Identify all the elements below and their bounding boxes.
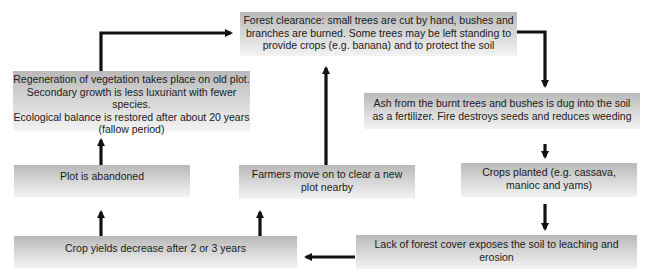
node-text-line: as a fertilizer. Fire destroys seeds and… [372, 110, 631, 123]
node-lack-forest-cover: Lack of forest cover exposes the soil to… [356, 235, 637, 269]
node-text-line: branches are burned. Some trees may be l… [243, 27, 513, 40]
node-text-line: Ash from the burnt trees and bushes is d… [372, 97, 631, 110]
node-text-line: Ecological balance is restored after abo… [13, 111, 250, 124]
node-crop-yields: Crop yields decrease after 2 or 3 years [14, 236, 297, 268]
node-text-line: provide crops (e.g. banana) and to prote… [243, 39, 513, 52]
arrow-regeneration-to-clearance [101, 33, 231, 71]
node-ash: Ash from the burnt trees and bushes is d… [364, 93, 640, 129]
node-text-line: erosion [375, 251, 619, 264]
node-text-line: Plot is abandoned [60, 170, 144, 183]
node-text-line: plot nearby [252, 181, 403, 194]
node-text-line: Regeneration of vegetation takes place o… [13, 73, 250, 86]
node-text-line: Forest clearance: small trees are cut by… [243, 14, 513, 27]
node-forest-clearance: Forest clearance: small trees are cut by… [240, 12, 517, 56]
node-text-line: Secondary growth is less luxuriant with … [13, 86, 250, 111]
node-crops-planted: Crops planted (e.g. cassava, manioc and … [461, 163, 637, 197]
node-text-line: (fallow period) [13, 123, 250, 136]
node-text-line: Lack of forest cover exposes the soil to… [375, 238, 619, 251]
node-regeneration: Regeneration of vegetation takes place o… [13, 71, 250, 131]
node-text-line: manioc and yams) [482, 179, 616, 192]
node-farmers-move: Farmers move on to clear a new plot near… [239, 165, 415, 199]
node-text-line: Farmers move on to clear a new [252, 168, 403, 181]
arrow-clearance-to-ash [517, 32, 545, 86]
node-plot-abandoned: Plot is abandoned [14, 165, 190, 197]
node-text-line: Crops planted (e.g. cassava, [482, 166, 616, 179]
node-text-line: Crop yields decrease after 2 or 3 years [65, 242, 246, 255]
